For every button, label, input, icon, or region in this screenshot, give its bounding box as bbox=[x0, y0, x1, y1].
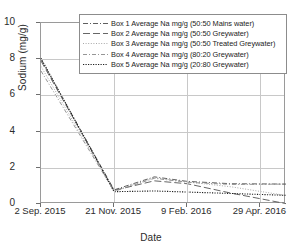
gridline-horizontal bbox=[41, 95, 284, 96]
x-axis-title: Date bbox=[0, 232, 302, 243]
y-tick-label: 10 bbox=[0, 17, 15, 27]
legend-item-label: Box 5 Average Na mg/g (20:80 Greywater) bbox=[111, 60, 249, 69]
y-tick-label: 8 bbox=[0, 53, 15, 63]
legend-item-label: Box 1 Average Na mg/g (50:50 Mains water… bbox=[111, 19, 254, 28]
legend-item-label: Box 4 Average Na mg/g (80:20 Greywater) bbox=[111, 50, 249, 59]
legend: Box 1 Average Na mg/g (50:50 Mains water… bbox=[79, 14, 287, 74]
legend-item-5[interactable]: Box 5 Average Na mg/g (20:80 Greywater) bbox=[83, 60, 282, 70]
legend-line-swatch-icon bbox=[83, 29, 108, 38]
legend-item-label: Box 2 Average Na mg/g (50:50 Greywater) bbox=[111, 29, 249, 38]
y-tick-label: 6 bbox=[0, 89, 15, 99]
legend-item-3[interactable]: Box 3 Average Na mg/g (50:50 Treated Gre… bbox=[83, 39, 282, 49]
y-tick-label: 0 bbox=[0, 198, 15, 208]
gridline-horizontal bbox=[41, 132, 284, 133]
legend-item-2[interactable]: Box 2 Average Na mg/g (50:50 Greywater) bbox=[83, 28, 282, 38]
legend-line-swatch-icon bbox=[83, 19, 108, 28]
legend-line-swatch-icon bbox=[83, 39, 108, 48]
y-tick-label: 2 bbox=[0, 162, 15, 172]
gridline-horizontal bbox=[41, 168, 284, 169]
legend-line-swatch-icon bbox=[83, 50, 108, 59]
legend-line-swatch-icon bbox=[83, 60, 108, 69]
y-axis-title: Sodium (mg/g) bbox=[17, 0, 28, 118]
y-tick-label: 4 bbox=[0, 126, 15, 136]
sodium-line-chart: Sodium (mg/g) Date 0246810 2 Sep. 201521… bbox=[0, 0, 302, 250]
legend-item-label: Box 3 Average Na mg/g (50:50 Treated Gre… bbox=[111, 39, 275, 48]
legend-item-4[interactable]: Box 4 Average Na mg/g (80:20 Greywater) bbox=[83, 49, 282, 59]
legend-item-1[interactable]: Box 1 Average Na mg/g (50:50 Mains water… bbox=[83, 18, 282, 28]
